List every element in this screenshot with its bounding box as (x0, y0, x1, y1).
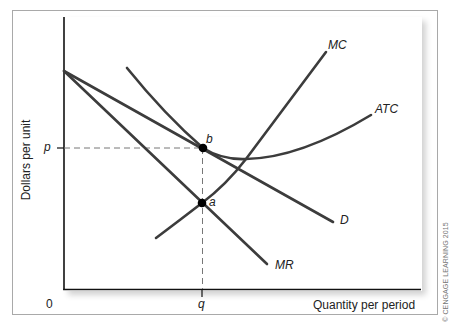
atc-label: ATC (375, 102, 398, 116)
chart-svg (0, 0, 453, 325)
y-axis-label: Dollars per unit (19, 120, 33, 201)
copyright-notice: © CENGAGE LEARNING 2015 (442, 222, 449, 322)
p-tick-label: p (44, 140, 51, 154)
marginal-cost-curve (156, 52, 326, 238)
origin-label: 0 (46, 297, 53, 311)
mc-label: MC (328, 38, 347, 52)
point-a (198, 199, 207, 208)
point-b-label: b (206, 132, 213, 146)
q-tick-label: q (198, 297, 205, 311)
d-label: D (340, 213, 349, 227)
point-a-label: a (209, 195, 216, 209)
mr-label: MR (275, 258, 294, 272)
average-total-cost-curve (127, 68, 371, 159)
x-axis-label: Quantity per period (313, 298, 415, 312)
